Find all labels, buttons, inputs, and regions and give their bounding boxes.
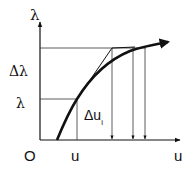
delta-u-label: Δui bbox=[84, 108, 103, 127]
delta-u-subscript: i bbox=[101, 118, 103, 127]
diagram-canvas bbox=[0, 0, 190, 169]
u-label: u bbox=[71, 148, 79, 163]
y-axis-label: λ bbox=[30, 8, 40, 23]
origin-label: O bbox=[24, 148, 36, 163]
x-axis-label: u bbox=[174, 148, 182, 163]
delta-u-text: Δu bbox=[84, 107, 101, 123]
load-curve bbox=[57, 42, 168, 140]
delta-lambda-label: Δλ bbox=[9, 64, 28, 78]
diagram: λ Δλ λ O u u Δui bbox=[0, 0, 190, 169]
lambda-label: λ bbox=[16, 96, 25, 110]
